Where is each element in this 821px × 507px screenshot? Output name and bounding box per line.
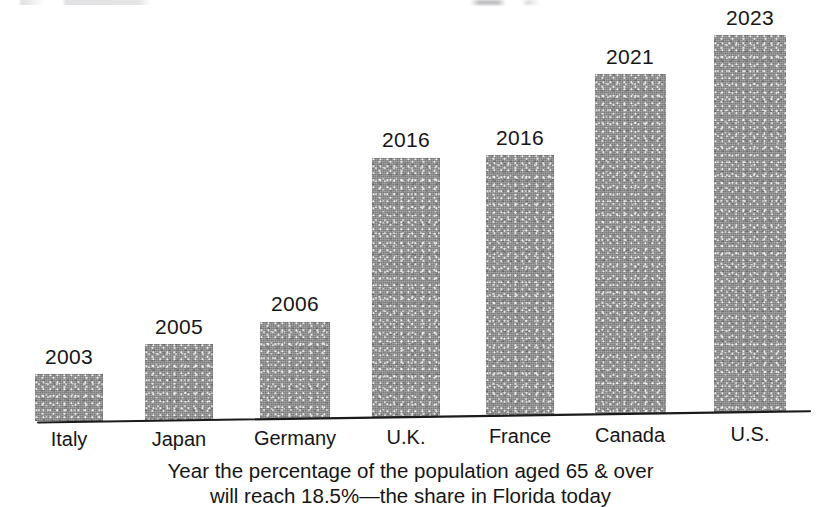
- bar-germany: [260, 322, 330, 418]
- category-label-italy: Italy: [19, 428, 119, 451]
- value-label-us: 2023: [704, 6, 796, 30]
- value-label-italy: 2003: [23, 345, 115, 369]
- value-label-japan: 2005: [133, 315, 225, 339]
- category-label-japan: Japan: [129, 428, 229, 451]
- value-label-germany: 2006: [249, 292, 341, 316]
- caption-line-1: Year the percentage of the population ag…: [0, 458, 821, 483]
- bar-france: [486, 155, 554, 415]
- bar-uk: [372, 158, 440, 417]
- category-label-us: U.S.: [700, 423, 800, 446]
- category-label-france: France: [470, 425, 570, 448]
- value-label-canada: 2021: [584, 45, 676, 69]
- value-label-france: 2016: [474, 126, 566, 150]
- category-label-uk: U.K.: [356, 426, 456, 449]
- bar-us: [714, 35, 786, 412]
- bar-canada: [595, 74, 666, 413]
- x-axis-line: [38, 408, 810, 426]
- bar-chart: 2003 2005 2006 2016 2016 2021 2023 Italy…: [0, 0, 821, 507]
- value-label-uk: 2016: [360, 128, 452, 152]
- chart-caption: Year the percentage of the population ag…: [0, 458, 821, 507]
- caption-line-2: will reach 18.5%—the share in Florida to…: [0, 483, 821, 507]
- category-label-canada: Canada: [580, 424, 680, 447]
- category-label-germany: Germany: [245, 427, 345, 450]
